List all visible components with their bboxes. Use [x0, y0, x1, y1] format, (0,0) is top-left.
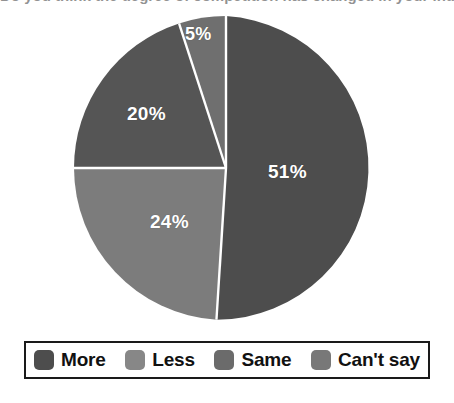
- pie-label-same: 24%: [150, 211, 189, 233]
- legend-item-same[interactable]: Same: [214, 349, 291, 371]
- legend-swatch-less: [125, 350, 145, 370]
- chart-legend: More Less Same Can't say: [24, 341, 430, 379]
- legend-swatch-cant-say: [311, 350, 331, 370]
- legend-swatch-same: [214, 350, 234, 370]
- pie-chart: 51% 24% 20% 5%: [0, 0, 454, 334]
- pie-label-cant-say: 5%: [185, 24, 212, 45]
- legend-item-cant-say[interactable]: Can't say: [311, 349, 420, 371]
- pie-label-more: 51%: [268, 161, 307, 183]
- legend-label-cant-say: Can't say: [338, 349, 420, 371]
- pie-label-less: 20%: [127, 103, 166, 125]
- legend-item-more[interactable]: More: [34, 349, 106, 371]
- legend-label-less: Less: [152, 349, 195, 371]
- legend-label-more: More: [61, 349, 106, 371]
- legend-label-same: Same: [241, 349, 291, 371]
- legend-item-less[interactable]: Less: [125, 349, 195, 371]
- legend-swatch-more: [34, 350, 54, 370]
- pie-chart-svg: [71, 12, 381, 324]
- pie-slice-same[interactable]: [74, 168, 226, 320]
